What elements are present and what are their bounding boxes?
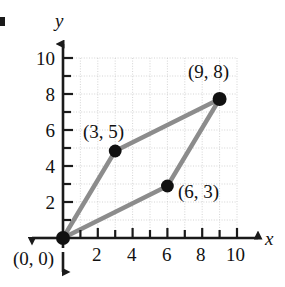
x-tick-label-2: 2 — [92, 245, 102, 264]
y-tick-label-10: 10 — [25, 49, 55, 68]
y-tick-label-4: 4 — [25, 157, 55, 176]
y-axis-ticks — [63, 58, 73, 220]
point-label-origin: (0, 0) — [13, 249, 54, 268]
grid-lines — [63, 58, 237, 238]
y-tick-label-8: 8 — [25, 85, 55, 104]
point-label-3-5: (3, 5) — [83, 122, 124, 141]
x-tick-label-4: 4 — [127, 245, 137, 264]
point-origin — [56, 231, 70, 245]
y-axis-label: y — [55, 11, 63, 30]
x-tick-label-10: 10 — [226, 245, 245, 264]
x-tick-label-8: 8 — [196, 245, 206, 264]
x-tick-label-6: 6 — [162, 245, 172, 264]
y-tick-label-6: 6 — [25, 121, 55, 140]
data-points — [56, 92, 227, 245]
y-tick-label-2: 2 — [25, 193, 55, 212]
coordinate-plane-figure: y x 10 8 6 4 2 2 4 6 8 10 (0, 0) (3, 5) … — [0, 0, 285, 287]
x-axis-ticks — [80, 228, 237, 238]
x-axis-label: x — [265, 229, 273, 248]
quadrilateral-outline — [63, 99, 220, 238]
point-6-3 — [161, 180, 174, 193]
point-label-9-8: (9, 8) — [188, 62, 229, 81]
point-3-5 — [109, 145, 122, 158]
point-9-8 — [213, 92, 227, 106]
point-label-6-3: (6, 3) — [178, 182, 219, 201]
